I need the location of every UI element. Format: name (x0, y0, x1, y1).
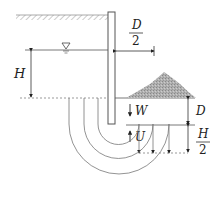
diagram-canvas: H D 2 D H 2 W U (0, 0, 218, 209)
d-half-denominator: 2 (132, 34, 140, 48)
u-label: U (135, 130, 146, 144)
flow-lines (69, 98, 169, 174)
h-half-numerator: H (197, 127, 209, 141)
ground-surface (16, 15, 108, 20)
h-half-denominator: 2 (199, 143, 207, 157)
d-label: D (195, 104, 206, 118)
berm-surcharge (126, 72, 196, 98)
water-level-triangle-icon (62, 43, 70, 53)
flow-line-inner (98, 98, 139, 153)
h-label: H (13, 66, 26, 81)
w-label: W (135, 104, 149, 118)
d-half-numerator: D (131, 18, 142, 32)
diagram-svg: H D 2 D H 2 W U (0, 0, 218, 209)
sheet-pile (108, 12, 115, 124)
